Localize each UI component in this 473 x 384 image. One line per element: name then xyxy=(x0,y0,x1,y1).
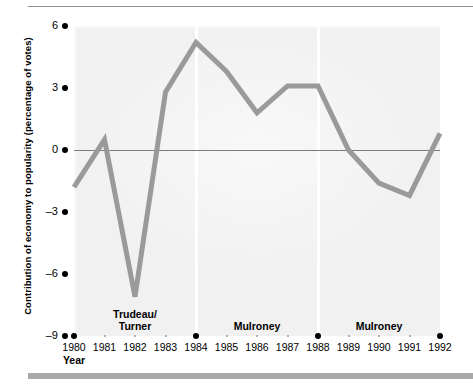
x-tick-dot-election xyxy=(193,333,199,339)
x-tick-dot-election xyxy=(437,333,443,339)
era-mulroney-second: Mulroney xyxy=(324,320,434,332)
y-tick-label: 0 xyxy=(36,143,58,155)
y-tick-dot xyxy=(62,333,68,339)
bottom-divider-bar xyxy=(28,373,473,379)
y-tick-label: –3 xyxy=(36,205,58,217)
x-tick-dot xyxy=(256,335,258,337)
x-axis-title: Year xyxy=(44,354,104,366)
y-axis-title: Contribution of economy to popularity (p… xyxy=(22,26,33,326)
y-tick-dot xyxy=(62,271,68,277)
top-divider-rule xyxy=(28,6,473,7)
x-tick-dot-election xyxy=(71,333,77,339)
y-tick-dot xyxy=(62,85,68,91)
x-tick-dot xyxy=(287,335,289,337)
y-tick-label: –6 xyxy=(36,267,58,279)
x-tick-label: 1992 xyxy=(420,341,460,353)
economy-contribution-line xyxy=(74,43,440,297)
x-tick-dot xyxy=(226,335,228,337)
y-tick-dot xyxy=(62,209,68,215)
era-trudeau-turner: Trudeau/ Turner xyxy=(80,308,190,332)
x-tick-dot xyxy=(348,335,350,337)
x-tick-dot xyxy=(134,335,136,337)
era-mulroney-first: Mulroney xyxy=(202,320,312,332)
y-tick-dot xyxy=(62,23,68,29)
x-tick-dot xyxy=(165,335,167,337)
x-tick-dot-election xyxy=(315,333,321,339)
y-tick-label: 6 xyxy=(36,19,58,31)
x-tick-dot xyxy=(409,335,411,337)
y-tick-label: 3 xyxy=(36,81,58,93)
y-tick-dot xyxy=(62,147,68,153)
plot-area xyxy=(74,26,440,336)
chart-figure: Contribution of economy to popularity (p… xyxy=(0,0,473,384)
y-tick-label: –9 xyxy=(36,329,58,341)
series-line-chart xyxy=(74,26,440,336)
x-tick-dot xyxy=(104,335,106,337)
x-tick-dot xyxy=(378,335,380,337)
